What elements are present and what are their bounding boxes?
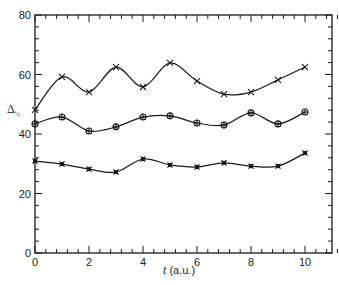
x-tick-label: 8 [248, 256, 254, 268]
series-middle [32, 109, 308, 134]
y-tick-label: 40 [19, 128, 31, 140]
cross-marker [194, 78, 200, 84]
cross-marker [302, 64, 308, 70]
x-tick-label: 4 [140, 256, 146, 268]
data-series [32, 60, 308, 175]
series-upper [32, 60, 308, 113]
series-line [35, 63, 305, 110]
x-tick-label: 10 [299, 256, 311, 268]
plot-border [35, 15, 332, 253]
x-axis-title: t (a.u.) [163, 263, 195, 277]
y-tick-label: 60 [19, 69, 31, 81]
x-axis-title-unit: (a.u.) [166, 264, 195, 276]
series-lower [32, 150, 307, 174]
y-tick-label: 20 [19, 188, 31, 200]
y-axis-title: Δ½ [7, 102, 20, 118]
y-axis-title-subscript: ½ [15, 110, 20, 118]
series-line [35, 153, 305, 173]
line-chart: 0246810020406080 t (a.u.) Δ½ [0, 0, 339, 285]
axis-ticks [35, 15, 337, 253]
plot-frame [35, 15, 332, 253]
y-tick-label: 0 [25, 247, 31, 259]
x-tick-label: 2 [86, 256, 92, 268]
x-tick-label: 0 [32, 256, 38, 268]
cross-marker [275, 77, 281, 83]
axis-tick-labels: 0246810020406080 [19, 9, 311, 268]
y-tick-label: 80 [19, 9, 31, 21]
